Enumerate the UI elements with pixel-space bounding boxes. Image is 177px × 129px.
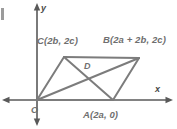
- point-label-C: C(2b, 2c): [37, 36, 78, 46]
- y-axis-label: y: [41, 4, 46, 13]
- point-label-A: A(2a, 0): [83, 110, 118, 120]
- x-axis-label: x: [155, 85, 160, 94]
- point-label-B: B(2a + 2b, 2c): [103, 35, 166, 45]
- point-label-O: O: [31, 106, 38, 115]
- coordinate-diagram: C(2b, 2c) B(2a + 2b, 2c) A(2a, 0) D O x …: [0, 0, 177, 129]
- point-label-D: D: [84, 62, 91, 71]
- segment-BC: [64, 57, 139, 58]
